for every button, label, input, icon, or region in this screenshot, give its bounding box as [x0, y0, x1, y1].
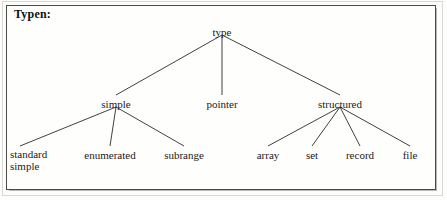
tree-node-standard-simple: standardsimple — [10, 149, 47, 172]
tree-node-subrange: subrange — [164, 149, 204, 161]
tree-node-label: set — [306, 149, 318, 161]
tree-node-array: array — [257, 149, 280, 161]
tree-node-label: pointer — [206, 98, 237, 110]
frame-shadow-bottom — [9, 190, 437, 191]
tree-node-label: enumerated — [84, 149, 135, 161]
tree-node-label: type — [213, 26, 232, 38]
tree-node-structured: structured — [318, 98, 362, 110]
tree-node-label-line1: standard — [10, 149, 47, 161]
tree-node-label: structured — [318, 98, 362, 110]
tree-node-file: file — [403, 149, 418, 161]
figure-typen: Typen: typesimplepointerstructuredstanda… — [0, 0, 447, 200]
tree-node-label: subrange — [164, 149, 204, 161]
tree-node-simple: simple — [101, 98, 130, 110]
tree-node-label: array — [257, 149, 280, 161]
figure-title: Typen: — [14, 7, 51, 21]
tree-node-label: record — [346, 149, 374, 161]
tree-node-pointer: pointer — [206, 98, 237, 110]
tree-node-type: type — [213, 26, 232, 38]
tree-node-label: simple — [101, 98, 130, 110]
tree-node-set: set — [306, 149, 318, 161]
tree-node-enumerated: enumerated — [84, 149, 135, 161]
frame-shadow-right — [436, 8, 437, 191]
tree-node-record: record — [346, 149, 374, 161]
tree-node-label-line2: simple — [10, 161, 47, 173]
tree-node-label: file — [403, 149, 418, 161]
